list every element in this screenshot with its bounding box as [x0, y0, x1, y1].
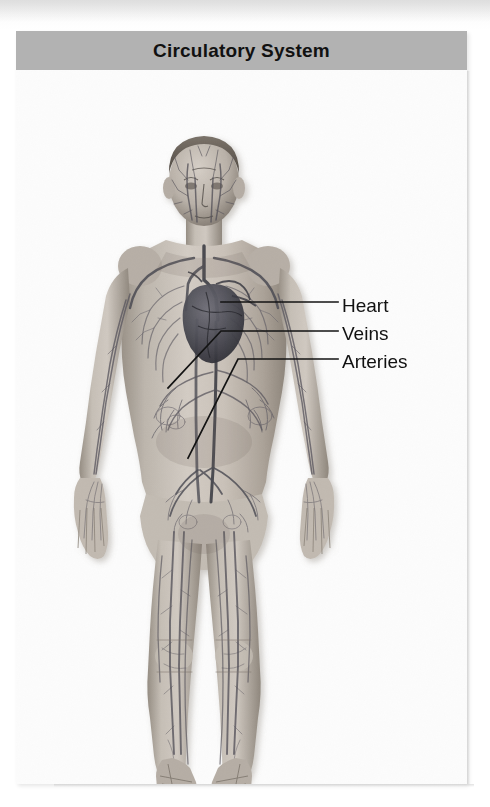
- panel-bottom-edge-shadow: [54, 784, 474, 787]
- callout-label-veins: Veins: [342, 324, 388, 343]
- scanned-page-background: Circulatory System: [0, 0, 490, 807]
- human-body-circulatory-diagram: [16, 70, 467, 784]
- figure-title: Circulatory System: [153, 40, 330, 62]
- panel-right-edge-shadow: [467, 71, 470, 784]
- callout-label-heart: Heart: [342, 296, 388, 315]
- page-top-shading: [0, 0, 490, 22]
- figure-title-bar: Circulatory System: [16, 31, 467, 70]
- figure-panel: Circulatory System: [16, 31, 467, 784]
- anatomical-illustration: Heart Veins Arteries: [16, 70, 467, 784]
- callout-label-arteries: Arteries: [342, 352, 407, 371]
